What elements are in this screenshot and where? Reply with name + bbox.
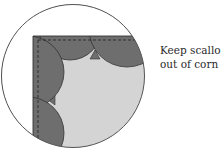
caption-line-1: Keep scallo <box>160 43 221 57</box>
caption: Keep scallo out of corn <box>160 43 221 71</box>
scallop-corner-diagram <box>0 0 224 154</box>
caption-line-2: out of corn <box>160 57 221 71</box>
